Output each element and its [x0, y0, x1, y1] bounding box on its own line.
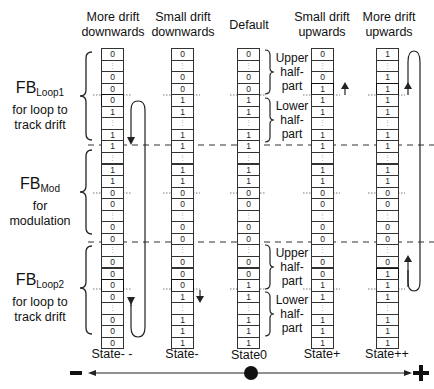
half-label-line: Lower: [272, 99, 312, 113]
half-label-line: Lower: [272, 293, 312, 307]
drift-axis: [70, 365, 429, 381]
label-upper-half-part-top: Upper half- part: [272, 51, 312, 93]
half-label-line: part: [272, 321, 312, 335]
fb-desc: track drift: [0, 118, 80, 133]
half-label-line: part: [272, 127, 312, 141]
arrow-up-icon: [404, 82, 412, 89]
state-label-zero: State0: [214, 348, 284, 362]
half-label-line: Upper: [272, 51, 312, 65]
arrow-down-icon: [127, 137, 135, 145]
half-label-line: half-: [272, 113, 312, 127]
fb-sub: Mod: [41, 183, 60, 194]
fb-name: FB: [16, 79, 36, 96]
arrow-down-icon: [127, 297, 135, 305]
arrow-up-icon: [341, 82, 349, 89]
fb-desc: for loop to: [0, 103, 80, 118]
label-fb-mod: FBMod for modulation: [0, 176, 80, 229]
left-braces: [80, 52, 92, 334]
label-fb-loop1: FBLoop1 for loop to track drift: [0, 80, 80, 133]
fb-desc: modulation: [0, 214, 80, 229]
fb-desc: for: [0, 199, 80, 214]
label-upper-half-part-bottom: Upper half- part: [272, 246, 312, 288]
fb-name: FB: [16, 271, 36, 288]
label-fb-loop2: FBLoop2 for loop to track drift: [0, 272, 80, 325]
half-label-line: Upper: [272, 246, 312, 260]
arrow-right-icon: [404, 370, 412, 376]
state-minus-minus-loop: [131, 101, 145, 337]
fb-name: FB: [20, 175, 40, 192]
half-label-line: half-: [272, 307, 312, 321]
minus-icon: [70, 371, 82, 375]
default-state-marker: [244, 366, 258, 380]
arrow-down-icon: [196, 296, 204, 303]
half-label-line: half-: [272, 65, 312, 79]
arrow-left-icon: [88, 370, 96, 376]
state-label-minus: State-: [147, 347, 217, 361]
fb-desc: for loop to: [0, 295, 80, 310]
fb-sub: Loop2: [36, 279, 64, 290]
half-label-line: part: [272, 79, 312, 93]
label-lower-half-part-top: Lower half- part: [272, 99, 312, 141]
fb-sub: Loop1: [36, 87, 64, 98]
state-label-plus-plus: State++: [352, 347, 422, 361]
half-label-line: half-: [272, 260, 312, 274]
label-lower-half-part-bottom: Lower half- part: [272, 293, 312, 335]
arrow-up-icon: [404, 255, 412, 262]
state-label-minus-minus: State- -: [77, 347, 147, 361]
half-label-line: part: [272, 274, 312, 288]
fb-desc: track drift: [0, 310, 80, 325]
state-label-plus: State+: [287, 347, 357, 361]
